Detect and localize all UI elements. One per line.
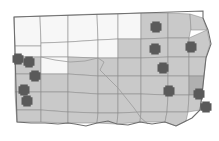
county-area bbox=[167, 95, 189, 112]
county-area bbox=[97, 14, 118, 40]
county-area bbox=[16, 110, 41, 122]
county-area bbox=[68, 112, 98, 123]
county-area bbox=[41, 74, 68, 92]
county-area bbox=[118, 76, 141, 94]
county-area bbox=[141, 94, 168, 112]
county-area bbox=[68, 14, 98, 42]
county-area bbox=[189, 57, 206, 76]
county-area bbox=[14, 16, 41, 46]
county-area bbox=[118, 39, 141, 58]
map-figure: South Dakota county map bbox=[0, 0, 219, 141]
counties-layer bbox=[14, 13, 210, 126]
county-area bbox=[40, 15, 68, 43]
south-dakota-county-map bbox=[0, 0, 219, 141]
county-area bbox=[41, 110, 68, 123]
county-area bbox=[68, 92, 98, 113]
county-area bbox=[168, 57, 189, 76]
county-area bbox=[68, 74, 98, 94]
county-area bbox=[41, 42, 68, 57]
county-area bbox=[98, 39, 118, 58]
county-area bbox=[98, 58, 118, 76]
county-area bbox=[118, 13, 141, 39]
county-area bbox=[41, 92, 68, 112]
county-area bbox=[68, 40, 98, 58]
county-area bbox=[118, 58, 141, 76]
county-area bbox=[68, 57, 98, 76]
county-area bbox=[168, 13, 191, 38]
county-area bbox=[98, 94, 118, 113]
county-area bbox=[118, 94, 141, 113]
